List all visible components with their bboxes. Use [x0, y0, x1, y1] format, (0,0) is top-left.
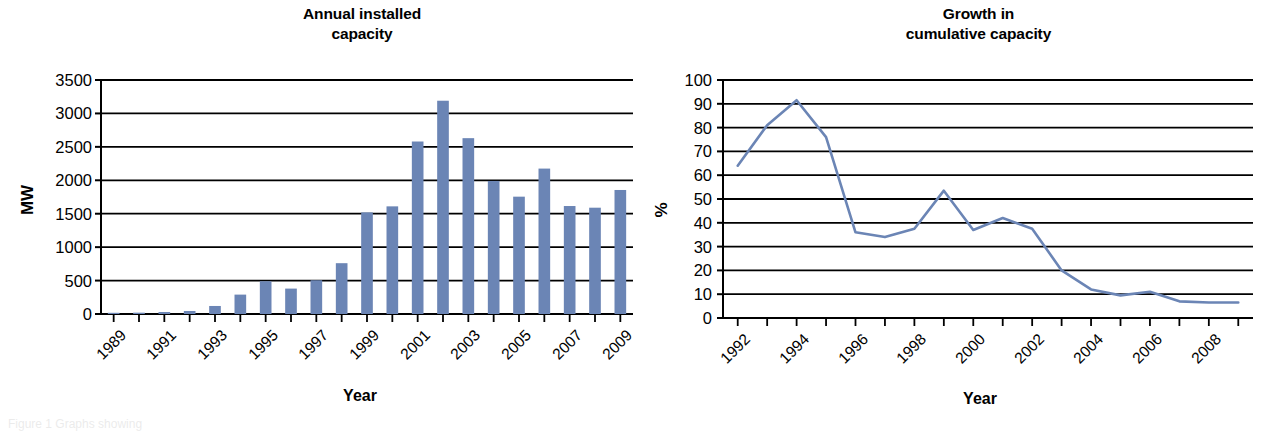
bar: [311, 280, 323, 314]
y-tick-label: 20: [656, 262, 712, 279]
bar: [260, 281, 272, 314]
bar: [539, 169, 551, 314]
bar: [387, 206, 399, 314]
y-tick-label: 2500: [30, 139, 92, 156]
bar: [108, 313, 120, 314]
y-tick-label: 70: [656, 143, 712, 160]
y-tick-label: 40: [656, 215, 712, 232]
bar: [209, 306, 221, 314]
y-tick-label: 2000: [30, 172, 92, 189]
bar: [235, 295, 247, 314]
chart-panel-annual-installed-capacity: Annual installed capacity MW Year 350030…: [0, 0, 640, 432]
bar: [615, 190, 627, 314]
y-tick-label: 3000: [30, 105, 92, 122]
bar: [437, 101, 449, 314]
bar: [463, 138, 475, 314]
bar: [361, 212, 373, 314]
bar: [513, 197, 525, 314]
y-tick-label: 1000: [30, 239, 92, 256]
bar: [589, 208, 601, 314]
bar: [412, 142, 424, 314]
y-tick-label: 30: [656, 239, 712, 256]
bar: [133, 313, 145, 314]
y-tick-label: 500: [30, 273, 92, 290]
y-tick-label: 10: [656, 286, 712, 303]
y-tick-label: 90: [656, 96, 712, 113]
bar: [184, 311, 196, 314]
partial-caption: Figure 1 Graphs showing: [8, 417, 308, 431]
bar: [564, 206, 576, 314]
y-tick-label: 50: [656, 191, 712, 208]
bar: [488, 181, 500, 314]
y-tick-label: 80: [656, 120, 712, 137]
y-tick-label: 100: [656, 72, 712, 89]
figure-two-charts: Annual installed capacity MW Year 350030…: [0, 0, 1261, 432]
chart-panel-growth-in-cumulative-capacity: Growth in cumulative capacity % Year 100…: [640, 0, 1261, 432]
bar: [336, 263, 348, 314]
y-tick-label: 60: [656, 167, 712, 184]
line-series: [738, 100, 1239, 302]
bar: [159, 312, 171, 314]
y-tick-label: 0: [656, 310, 712, 327]
y-tick-label: 3500: [30, 72, 92, 89]
y-tick-label: 0: [30, 306, 92, 323]
y-tick-label: 1500: [30, 206, 92, 223]
bar: [285, 289, 297, 314]
